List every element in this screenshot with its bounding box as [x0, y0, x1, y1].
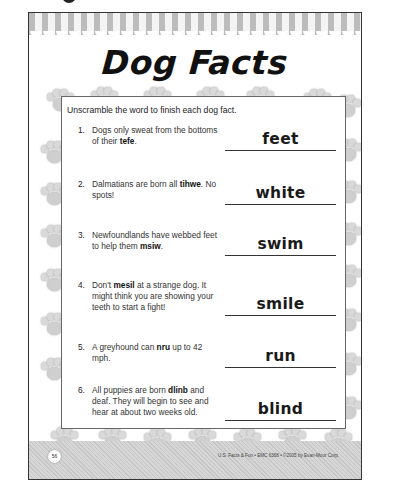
cropped-heading-glyph: [62, 0, 76, 3]
page-number-badge: 56: [48, 450, 61, 463]
scrambled-word: tefe: [120, 136, 135, 146]
item-number: 1.: [78, 125, 90, 135]
answer-line: [225, 150, 336, 151]
page-title: Dog Facts: [28, 43, 362, 82]
worksheet-page: Dog Facts 56 U.S. Facts & Fun • EMC 6368…: [28, 12, 362, 480]
fact-text: Don't mesil at a strange dog. It might t…: [92, 280, 222, 313]
fact-item-2: 2. Dalmatians are born all tihwe. No spo…: [78, 179, 343, 229]
striped-top-border: [29, 13, 361, 35]
item-number: 5.: [78, 342, 90, 352]
answer-field[interactable]: white: [225, 184, 336, 202]
fact-item-6: 6. All puppies are born dlinb and deaf. …: [78, 385, 343, 430]
scrambled-word: tihwe: [180, 179, 201, 189]
scrambled-word: msiw: [140, 241, 161, 251]
answer-field[interactable]: blind: [225, 400, 336, 418]
answer-field[interactable]: swim: [225, 235, 336, 253]
answer-line: [225, 420, 336, 421]
answer-line: [225, 367, 336, 368]
answer-line: [225, 315, 336, 316]
fact-text: Dalmatians are born all tihwe. No spots!: [92, 179, 222, 201]
fact-item-3: 3. Newfoundlands have webbed feet to hel…: [78, 230, 343, 280]
copyright-credit: U.S. Facts & Fun • EMC 6368 • ©2005 by E…: [218, 453, 339, 458]
answer-field[interactable]: run: [225, 347, 336, 365]
item-number: 6.: [78, 385, 90, 395]
scrambled-word: dlinb: [168, 385, 188, 395]
fact-text: All puppies are born dlinb and deaf. The…: [92, 385, 222, 418]
answer-field[interactable]: feet: [225, 130, 336, 148]
exercise-box: Unscramble the word to finish each dog f…: [61, 96, 346, 429]
item-number: 3.: [78, 230, 90, 240]
fact-text: Dogs only sweat from the bottoms of thei…: [92, 125, 222, 147]
fact-text: A greyhound can nru up to 42 mph.: [92, 342, 222, 364]
footer-band: 56 U.S. Facts & Fun • EMC 6368 • ©2005 b…: [29, 441, 361, 479]
item-number: 2.: [78, 179, 90, 189]
answer-line: [225, 204, 336, 205]
fact-item-4: 4. Don't mesil at a strange dog. It migh…: [78, 280, 343, 340]
scrambled-word: mesil: [113, 280, 134, 290]
answer-field[interactable]: smile: [225, 295, 336, 313]
fact-text: Newfoundlands have webbed feet to help t…: [92, 230, 222, 252]
scrambled-word: nru: [157, 342, 170, 352]
answer-line: [225, 255, 336, 256]
instructions: Unscramble the word to finish each dog f…: [67, 105, 237, 115]
item-number: 4.: [78, 280, 90, 290]
fact-item-1: 1. Dogs only sweat from the bottoms of t…: [78, 125, 343, 175]
